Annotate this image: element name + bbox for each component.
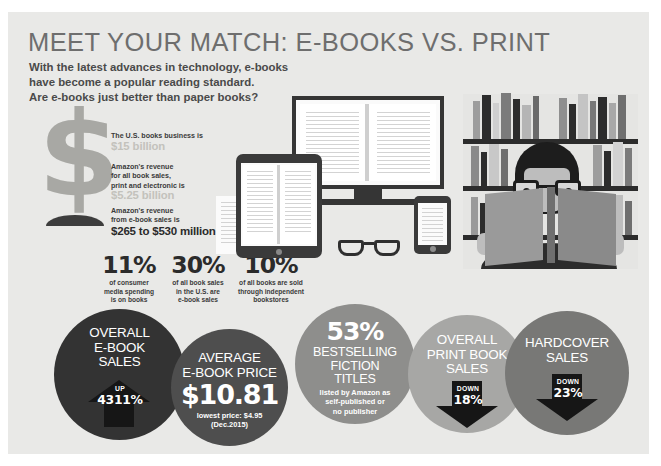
subheading-line-1: With the latest advances in technology, … <box>29 60 288 75</box>
tablet-device <box>236 154 322 258</box>
shelf-book <box>604 151 611 186</box>
held-book-spine <box>547 187 555 263</box>
arrow-value: 23% <box>533 386 603 399</box>
held-book-left-page <box>485 188 543 266</box>
revenue-stat-label-line-3: print and electronic is <box>111 182 185 190</box>
dollar-icon: $ <box>38 96 120 214</box>
shelf-book <box>613 142 623 186</box>
dollar-sign-illustration: $ <box>38 112 116 234</box>
arrow-label: DOWN 23% <box>533 378 603 399</box>
percent-stat-desc-line-2: through independent <box>225 288 317 297</box>
circle-title: AVERAGE E-BOOK PRICE <box>171 351 288 380</box>
circle-subtext: listed by Amazon as self-published or no… <box>295 388 415 416</box>
circle-sub-line-2: self-published or <box>295 397 415 406</box>
shelf-book <box>482 95 491 139</box>
circle-title: BESTSELLING FICTION TITLES <box>295 346 415 387</box>
circle-title-line-1: BESTSELLING <box>295 346 415 360</box>
text-lines <box>422 208 443 240</box>
circle-sub-line-1: listed by Amazon as <box>295 388 415 397</box>
monitor-neck <box>354 189 382 199</box>
arrow-label: UP 4311% <box>85 385 155 406</box>
circle-sub-line-2: (Dec.2015) <box>171 420 288 429</box>
shelf-book <box>625 201 632 235</box>
shelf-book <box>493 103 499 139</box>
circle-title-line-3: SALES <box>54 355 185 370</box>
circle-title: HARDCOVER SALES <box>505 336 629 365</box>
circle-title-line-2: SALES <box>505 351 629 366</box>
stat-circle-average-ebook-price: AVERAGE E-BOOK PRICE $10.81 lowest price… <box>171 329 288 446</box>
shelf-book <box>569 104 576 139</box>
shelf-book <box>609 103 616 139</box>
eyeglasses-bridge <box>364 242 374 245</box>
shelf-book <box>593 145 602 186</box>
revenue-stat-value: $15 billion <box>111 142 203 151</box>
circle-title-line-2: FICTION <box>295 360 415 374</box>
percent-stat-independent-bookstores: 10% of all books are sold through indepe… <box>225 253 317 305</box>
book-page-right <box>280 165 315 244</box>
eyeglasses-icon <box>338 240 400 258</box>
shelf-book <box>501 149 508 186</box>
circle-title: OVERALL E-BOOK SALES <box>54 326 185 370</box>
percent-stat-desc-line-1: of all books are sold <box>225 279 317 288</box>
revenue-stat-amazon-ebook-sales: Amazon's revenue from e-book sales is $2… <box>111 207 216 236</box>
smartphone-home-button <box>430 246 436 252</box>
book-page-left <box>243 165 278 244</box>
page-title: MEET YOUR MATCH: E-BOOKS VS. PRINT <box>28 28 550 57</box>
revenue-stat-us-books-business: The U.S. books business is $15 billion <box>111 132 203 151</box>
shelf-book <box>578 94 588 139</box>
revenue-stat-label-line-2: for all book sales, <box>111 172 171 180</box>
text-lines <box>247 171 273 238</box>
stat-circle-overall-ebook-sales: OVERALL E-BOOK SALES UP 4311% <box>54 309 185 440</box>
shelf-book <box>598 97 607 139</box>
eyeglasses-left-lens <box>338 240 364 256</box>
text-lines <box>285 171 311 238</box>
circle-sub-line-1: lowest price: $4.95 <box>171 411 288 420</box>
percent-stat-description: of all books are sold through independen… <box>225 279 317 305</box>
shelf-book <box>473 101 480 139</box>
shelf-book <box>489 144 499 186</box>
shelf-book <box>471 197 478 235</box>
shelf-book <box>471 146 479 186</box>
revenue-stat-label-line-1: Amazon's revenue <box>111 163 173 171</box>
revenue-stat-amazon-all-book-sales: Amazon's revenue for all book sales, pri… <box>111 163 185 201</box>
eyeglasses-right-lens <box>374 240 400 256</box>
shelf-book <box>590 101 596 139</box>
held-book-right-page <box>558 188 616 266</box>
revenue-stat-label: The U.S. books business is <box>111 132 203 140</box>
reader-illustration <box>463 94 638 269</box>
circle-subtext: lowest price: $4.95 (Dec.2015) <box>171 411 288 430</box>
circle-title-line-1: OVERALL <box>54 326 185 341</box>
shelf-book <box>522 105 531 139</box>
arrow-value: 4311% <box>85 393 155 406</box>
text-lines <box>377 112 430 173</box>
circle-title-line-2: E-BOOK PRICE <box>171 366 288 381</box>
shelf-book <box>625 148 632 186</box>
circle-big-value: $10.81 <box>171 381 288 409</box>
infographic-canvas: MEET YOUR MATCH: E-BOOKS VS. PRINT With … <box>8 12 649 454</box>
monitor-stand <box>314 199 422 205</box>
circle-title-line-1: AVERAGE <box>171 351 288 366</box>
arrow-label: DOWN 18% <box>433 385 503 406</box>
shelf-book <box>618 95 626 139</box>
tablet-home-button <box>276 249 282 255</box>
devices-illustration <box>236 96 451 254</box>
tablet-screen <box>241 163 317 246</box>
book-page-right <box>369 104 436 181</box>
smartphone-device <box>414 196 451 254</box>
percent-stat-desc-line-3: bookstores <box>225 296 317 305</box>
stat-circle-bestselling-fiction-titles: 53% BESTSELLING FICTION TITLES listed by… <box>295 304 415 424</box>
shelf-book <box>481 152 487 186</box>
shelf-book <box>559 98 567 139</box>
circle-title-line-3: TITLES <box>295 373 415 387</box>
smartphone-screen <box>418 203 447 245</box>
shelf-book <box>615 195 623 235</box>
circle-title-line-2: E-BOOK <box>54 341 185 356</box>
revenue-stat-label-line-1: Amazon's revenue <box>111 207 173 215</box>
circle-big-value: 53% <box>295 318 415 345</box>
revenue-stat-label-line-2: from e-book sales is <box>111 216 180 224</box>
open-book-on-tablet <box>243 165 315 244</box>
shelf-book <box>533 96 539 139</box>
revenue-stat-value: $5.25 billion <box>111 191 185 200</box>
circle-title-line-1: HARDCOVER <box>505 336 629 351</box>
circle-sub-line-3: no publisher <box>295 407 415 416</box>
